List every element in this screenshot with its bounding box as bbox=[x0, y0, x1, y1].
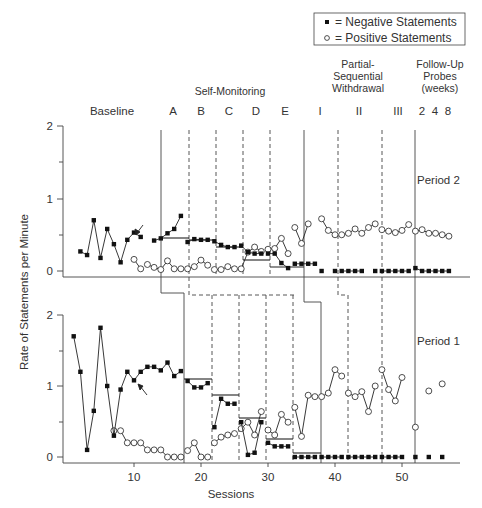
positive-data-point bbox=[359, 389, 365, 395]
positive-data-point bbox=[319, 394, 325, 400]
positive-data-point bbox=[325, 390, 331, 396]
followup-week-4: 4 bbox=[432, 105, 439, 117]
negative-data-point bbox=[319, 269, 323, 273]
y-tick-labels: 2 1 0 2 1 0 bbox=[47, 120, 53, 463]
negative-data-point bbox=[273, 444, 277, 448]
withdrawal-title-3: Withdrawal bbox=[332, 82, 384, 94]
positive-data-point bbox=[151, 264, 157, 270]
positive-data-point bbox=[138, 266, 144, 272]
positive-data-point bbox=[345, 390, 351, 396]
negative-data-point bbox=[293, 455, 297, 459]
negative-data-point bbox=[340, 269, 344, 273]
positive-data-point bbox=[252, 244, 258, 250]
x-tick-50: 50 bbox=[396, 471, 409, 483]
positive-data-point bbox=[218, 267, 224, 273]
negative-data-point bbox=[212, 239, 216, 243]
positive-data-point bbox=[392, 398, 398, 404]
negative-data-point bbox=[259, 420, 263, 424]
negative-data-point bbox=[306, 262, 310, 266]
phase-iii-label: III bbox=[393, 105, 403, 117]
negative-data-point bbox=[92, 218, 96, 222]
negative-data-point bbox=[407, 269, 411, 273]
positive-data-point bbox=[305, 392, 311, 398]
positive-data-point bbox=[131, 256, 137, 262]
positive-data-point bbox=[366, 225, 372, 231]
negative-data-point bbox=[232, 402, 236, 406]
positive-data-point bbox=[211, 267, 217, 273]
negative-data-point bbox=[433, 269, 437, 273]
positive-data-point bbox=[412, 424, 418, 430]
negative-data-point bbox=[333, 455, 337, 459]
positive-data-point bbox=[265, 246, 271, 252]
positive-data-point bbox=[171, 266, 177, 272]
negative-data-point bbox=[299, 455, 303, 459]
positive-data-point bbox=[198, 454, 204, 460]
negative-data-point bbox=[98, 256, 102, 260]
positive-data-point bbox=[178, 266, 184, 272]
negative-data-point bbox=[118, 260, 122, 264]
negative-data-point bbox=[306, 455, 310, 459]
negative-data-point bbox=[386, 455, 390, 459]
negative-data-point bbox=[232, 245, 236, 249]
negative-data-point bbox=[293, 262, 297, 266]
positive-data-point bbox=[399, 227, 405, 233]
negative-data-point bbox=[179, 214, 183, 218]
x-tick-40: 40 bbox=[329, 471, 342, 483]
negative-data-point bbox=[360, 455, 364, 459]
positive-data-point bbox=[366, 409, 372, 415]
positive-data-point bbox=[144, 447, 150, 453]
negative-data-point bbox=[246, 250, 250, 254]
positive-data-point bbox=[232, 266, 238, 272]
positive-marker-icon bbox=[325, 36, 330, 41]
positive-data-point bbox=[131, 440, 137, 446]
negative-data-point bbox=[246, 453, 250, 457]
negative-data-point bbox=[239, 420, 243, 424]
negative-data-point bbox=[252, 451, 256, 455]
positive-data-point bbox=[118, 428, 124, 434]
positive-data-point bbox=[419, 227, 425, 233]
negative-data-point bbox=[393, 455, 397, 459]
phase-i-label: I bbox=[318, 105, 321, 117]
positive-data-point bbox=[379, 367, 385, 373]
positive-data-point bbox=[191, 440, 197, 446]
positive-data-point bbox=[319, 216, 325, 222]
negative-data-point bbox=[427, 269, 431, 273]
y-tick-2-top: 2 bbox=[47, 120, 53, 132]
negative-data-point bbox=[139, 235, 143, 239]
positive-data-point bbox=[272, 432, 278, 438]
positive-data-point bbox=[332, 232, 338, 238]
positive-data-point bbox=[272, 246, 278, 252]
negative-data-point bbox=[279, 261, 283, 265]
negative-data-point bbox=[340, 455, 344, 459]
followup-week-2: 2 bbox=[419, 105, 425, 117]
positive-data-point bbox=[218, 434, 224, 440]
phase-labels: Baseline Self-Monitoring A B C D E Parti… bbox=[90, 58, 464, 117]
positive-data-point bbox=[185, 448, 191, 454]
negative-data-point bbox=[440, 269, 444, 273]
phase-c-label: C bbox=[225, 105, 233, 117]
positive-data-point bbox=[165, 258, 171, 264]
followup-title-2: Probes bbox=[423, 70, 456, 82]
positive-data-point bbox=[205, 454, 211, 460]
negative-data-point bbox=[159, 368, 163, 372]
positive-data-point bbox=[278, 235, 284, 241]
y-tick-2-bottom: 2 bbox=[47, 309, 53, 321]
negative-data-point bbox=[273, 251, 277, 255]
x-axis-label: Sessions bbox=[208, 488, 255, 500]
negative-data-point bbox=[360, 269, 364, 273]
negative-data-point bbox=[206, 238, 210, 242]
followup-week-8: 8 bbox=[445, 105, 451, 117]
y-tick-1-top: 1 bbox=[47, 193, 53, 205]
negative-data-point bbox=[112, 242, 116, 246]
legend-positive-label: = Positive Statements bbox=[335, 31, 451, 45]
negative-data-point bbox=[125, 370, 129, 374]
positive-data-point bbox=[265, 427, 271, 433]
positive-data-point bbox=[299, 433, 305, 439]
arrow-icons bbox=[135, 225, 147, 395]
positive-data-point bbox=[439, 232, 445, 238]
positive-data-point bbox=[439, 381, 445, 387]
phase-ii-label: II bbox=[356, 105, 362, 117]
positive-data-point bbox=[446, 233, 452, 239]
legend-negative-label: = Negative Statements bbox=[335, 15, 457, 29]
positive-data-point bbox=[399, 374, 405, 380]
